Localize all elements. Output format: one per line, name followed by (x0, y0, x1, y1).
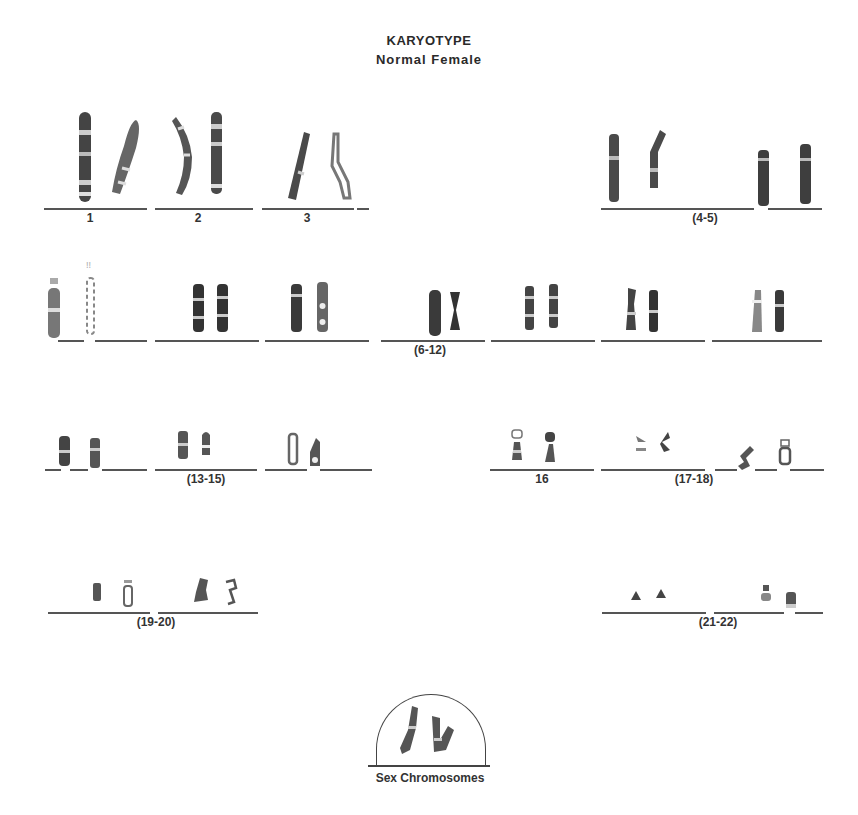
chromosome-15b (308, 438, 322, 470)
chromosome-8b (316, 282, 330, 334)
baseline-21-22-b (714, 612, 784, 614)
baseline-13-15-e (265, 469, 307, 471)
baseline-chr1 (44, 208, 147, 210)
group-label-3: 3 (297, 211, 317, 225)
chromosome-9b (448, 292, 462, 332)
group-label-2: 2 (188, 211, 208, 225)
chromosome-4b (644, 130, 666, 192)
baseline-6-12-a (58, 340, 84, 342)
chromosome-7a (192, 284, 206, 334)
chromosome-2a (170, 115, 196, 197)
chromosome-22b (785, 592, 797, 610)
chromosome-17b (658, 432, 672, 454)
baseline-chr3-tail (357, 208, 369, 210)
svg-text:!!: !! (86, 260, 91, 270)
baseline-16 (490, 469, 594, 471)
karyotype-title: KARYOTYPE (0, 33, 858, 48)
chromosome-17a (634, 434, 648, 454)
chromosome-7b (216, 284, 230, 334)
chromosome-20b (224, 580, 238, 606)
chromosome-13a (58, 436, 72, 468)
chromosome-19a (92, 583, 102, 603)
chromosome-18b (778, 440, 792, 466)
chromosome-5b (798, 144, 814, 206)
chromosome-2b (208, 112, 226, 196)
chromosome-16a (510, 430, 524, 464)
chromosome-14a (177, 431, 189, 461)
chromosome-9a (428, 290, 442, 338)
group-label-19-20: (19-20) (128, 615, 184, 629)
chromosome-11a (624, 288, 638, 332)
baseline-13-15-d (155, 469, 257, 471)
baseline-6-12-g (601, 340, 705, 342)
chromosome-22a (760, 585, 772, 603)
chromosome-10a (524, 286, 536, 332)
baseline-6-12-h (712, 340, 822, 342)
chromosome-11b (648, 290, 660, 334)
chromosome-21a (630, 590, 642, 602)
chromosome-4a (606, 134, 622, 204)
baseline-chr4-5c (768, 208, 822, 210)
chromosome-10b (548, 284, 560, 330)
baseline-21-22-c (795, 612, 823, 614)
chromosome-xb (430, 716, 456, 756)
group-label-4-5: (4-5) (680, 211, 730, 225)
group-label-1: 1 (80, 211, 100, 225)
sex-chromosomes-label: Sex Chromosomes (340, 771, 520, 785)
baseline-13-15-a (45, 469, 61, 471)
chromosome-12a (750, 290, 764, 334)
baseline-chr4-5a (601, 208, 713, 210)
chromosome-16b (543, 432, 557, 466)
chromosome-12b (774, 290, 786, 334)
baseline-13-15-c (102, 469, 147, 471)
chromosome-13b (89, 438, 101, 470)
chromosome-14b (200, 429, 212, 457)
baseline-6-12-d (265, 340, 369, 342)
karyotype-subtitle: Normal Female (0, 52, 858, 67)
baseline-17-18-b (715, 469, 737, 471)
chromosome-6b: !! (84, 258, 98, 336)
chromosome-20a (192, 578, 210, 604)
group-label-6-12: (6-12) (405, 343, 455, 357)
chromosome-8a (290, 284, 304, 334)
baseline-6-12-f (491, 340, 595, 342)
chromosome-3a (286, 132, 312, 202)
chromosome-21b (655, 588, 667, 600)
baseline-19-20-a (48, 612, 150, 614)
chromosome-19b (122, 580, 134, 608)
sex-chromosome-baseline (368, 765, 490, 767)
chromosome-1b (106, 118, 146, 198)
baseline-17-18-d (790, 469, 824, 471)
baseline-17-18-c (755, 469, 777, 471)
baseline-21-22-a (602, 612, 706, 614)
baseline-chr2 (155, 208, 253, 210)
baseline-6-12-b (95, 340, 147, 342)
chromosome-6a (46, 278, 62, 340)
baseline-chr4-5b (710, 208, 754, 210)
chromosome-3b (328, 132, 354, 202)
baseline-6-12-e (381, 340, 485, 342)
group-label-16: 16 (532, 472, 552, 486)
baseline-19-20-b (158, 612, 258, 614)
baseline-17-18-a (601, 469, 705, 471)
chromosome-18a (736, 446, 756, 472)
group-label-21-22: (21-22) (690, 615, 746, 629)
baseline-chr3 (262, 208, 354, 210)
baseline-13-15-f (320, 469, 372, 471)
group-label-13-15: (13-15) (180, 472, 232, 486)
chromosome-xa (398, 706, 422, 756)
chromosome-1a (76, 112, 96, 204)
baseline-6-12-c (155, 340, 259, 342)
group-label-17-18: (17-18) (666, 472, 722, 486)
chromosome-5a (756, 150, 772, 208)
baseline-13-15-b (70, 469, 88, 471)
chromosome-15a (287, 434, 299, 466)
